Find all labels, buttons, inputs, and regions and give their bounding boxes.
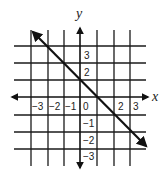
x-tick-0: 0 bbox=[83, 101, 89, 112]
coordinate-plane: y x −3 −2 −1 0 2 3 3 2 −1 −2 −3 bbox=[0, 0, 166, 173]
x-axis-label: x bbox=[151, 89, 159, 104]
x-tick-2: 2 bbox=[118, 101, 124, 112]
x-tick-neg2: −2 bbox=[49, 101, 61, 112]
y-axis-label: y bbox=[74, 6, 83, 21]
x-tick-3: 3 bbox=[133, 101, 139, 112]
y-tick-2: 2 bbox=[84, 67, 90, 78]
y-tick-neg2: −2 bbox=[83, 135, 95, 146]
x-tick-neg3: −3 bbox=[32, 101, 44, 112]
y-tick-3: 3 bbox=[84, 50, 90, 61]
y-tick-neg3: −3 bbox=[83, 151, 95, 162]
y-tick-neg1: −1 bbox=[83, 118, 95, 129]
x-tick-neg1: −1 bbox=[65, 101, 77, 112]
